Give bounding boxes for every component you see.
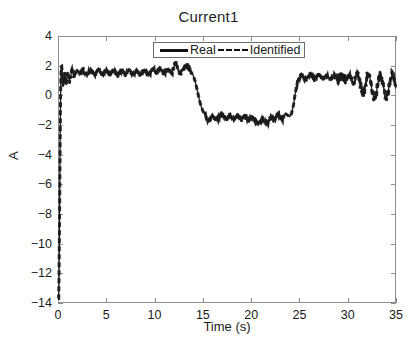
- legend-swatch-dashed-line: [218, 49, 248, 51]
- y-tick-label: −6: [38, 177, 52, 191]
- y-tick-label: 4: [45, 29, 52, 43]
- y-tick-mark: [58, 303, 63, 304]
- figure-canvas: Current1 A Time (s) 420−2−4−6−8−10−12−14…: [0, 0, 417, 348]
- legend-label-real: Real: [190, 43, 216, 57]
- x-tick-mark: [396, 298, 397, 303]
- series-line-real: [58, 61, 396, 298]
- x-tick-label: 5: [103, 308, 110, 322]
- y-axis-label: A: [6, 151, 21, 160]
- y-tick-label: −12: [31, 266, 52, 280]
- x-tick-label: 10: [148, 308, 162, 322]
- series-plot: [58, 36, 396, 303]
- y-tick-label: 0: [45, 88, 52, 102]
- legend-entry-identified: Identified: [216, 43, 301, 57]
- y-tick-label: −4: [38, 148, 52, 162]
- y-tick-label: −8: [38, 207, 52, 221]
- legend-entry-real: Real: [158, 43, 216, 57]
- series-line-identified: [58, 61, 396, 298]
- y-tick-label: −2: [38, 118, 52, 132]
- x-tick-label: 25: [292, 308, 306, 322]
- page-title: Current1: [0, 8, 417, 25]
- plot-area: 420−2−4−6−8−10−12−14 05101520253035: [58, 36, 396, 303]
- legend: Real Identified: [153, 42, 305, 58]
- legend-label-identified: Identified: [250, 43, 301, 57]
- x-tick-label: 30: [341, 308, 355, 322]
- x-tick-label: 0: [55, 308, 62, 322]
- y-tick-label: −10: [31, 237, 52, 251]
- legend-swatch-solid-line: [160, 49, 188, 52]
- x-tick-mark-top: [396, 36, 397, 41]
- x-tick-label: 35: [389, 308, 403, 322]
- x-tick-label: 15: [196, 308, 210, 322]
- y-tick-label: −14: [31, 296, 52, 310]
- x-tick-label: 20: [244, 308, 258, 322]
- y-tick-label: 2: [45, 59, 52, 73]
- y-tick-mark-right: [391, 303, 396, 304]
